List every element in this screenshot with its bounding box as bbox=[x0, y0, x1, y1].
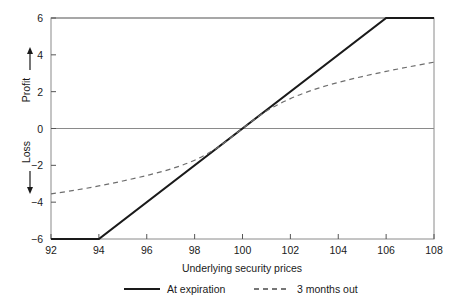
loss-arrow-head-icon bbox=[27, 187, 33, 194]
y-tick-label-0: 0 bbox=[37, 123, 43, 135]
y-tick-label--4: −4 bbox=[31, 196, 43, 208]
x-tick-label-98: 98 bbox=[189, 244, 201, 256]
x-axis-title: Underlying security prices bbox=[182, 262, 302, 274]
x-tick-label-100: 100 bbox=[234, 244, 252, 256]
x-tick-label-108: 108 bbox=[425, 244, 443, 256]
y-axis-ticks: 6420−2−4−6 bbox=[31, 12, 56, 245]
legend-label-3-months-out: 3 months out bbox=[297, 283, 358, 295]
y-tick-label--6: −6 bbox=[31, 233, 43, 245]
x-tick-label-106: 106 bbox=[377, 244, 395, 256]
y-tick-label-2: 2 bbox=[37, 86, 43, 98]
x-tick-label-102: 102 bbox=[282, 244, 300, 256]
profit-arrow-head-icon bbox=[27, 47, 33, 54]
y-axis-title-profit-label: Profit bbox=[20, 78, 32, 103]
profit-loss-chart: 92949698100102104106108 6420−2−4−6 Under… bbox=[0, 0, 451, 304]
y-tick-label--2: −2 bbox=[31, 159, 43, 171]
y-axis-title-loss-label: Loss bbox=[20, 141, 32, 163]
chart-legend: At expiration 3 months out bbox=[124, 283, 358, 295]
legend-label-at-expiration: At expiration bbox=[167, 283, 226, 295]
y-tick-label-6: 6 bbox=[37, 12, 43, 24]
x-tick-label-92: 92 bbox=[45, 244, 57, 256]
x-tick-label-96: 96 bbox=[141, 244, 153, 256]
y-axis-title-profit: Profit bbox=[20, 47, 33, 102]
x-tick-label-104: 104 bbox=[329, 244, 347, 256]
x-axis-ticks: 92949698100102104106108 bbox=[45, 234, 443, 256]
chart-page: 92949698100102104106108 6420−2−4−6 Under… bbox=[0, 0, 451, 304]
y-tick-label-4: 4 bbox=[37, 49, 43, 61]
x-tick-label-94: 94 bbox=[93, 244, 105, 256]
